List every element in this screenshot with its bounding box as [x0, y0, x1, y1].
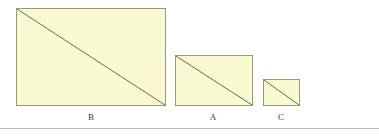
rectangle-group-a: [175, 55, 253, 106]
rectangle-group-c: [263, 79, 300, 106]
diagonal-line-segment: [176, 56, 252, 105]
diagonal-line-segment: [264, 80, 299, 105]
diagonal-line-icon: [16, 8, 166, 106]
rectangle-label-b: B: [68, 112, 114, 122]
rectangle-group-b: [16, 8, 166, 106]
diagonal-line-segment: [17, 9, 165, 105]
diagonal-line-icon: [263, 79, 300, 106]
diagonal-line-icon: [175, 55, 253, 106]
rectangle-label-a: A: [190, 112, 236, 122]
figure-canvas: B A C: [0, 0, 379, 140]
rectangle-label-c: C: [258, 112, 304, 122]
baseline-rule: [0, 128, 379, 129]
